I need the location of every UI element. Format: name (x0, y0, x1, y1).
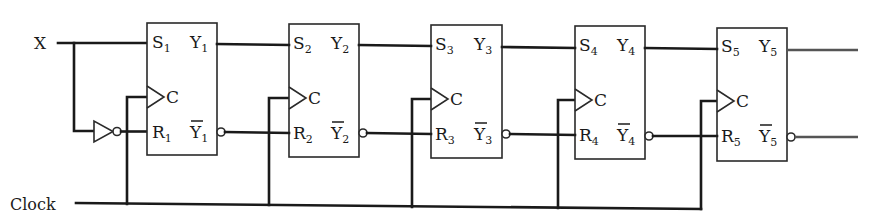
input-x-wire (58, 43, 147, 131)
clock-label: Clock (10, 195, 56, 214)
svg-text:C: C (166, 87, 179, 107)
svg-text:C: C (308, 88, 321, 108)
flipflop-4: S4 Y4 C R4 Y4 (575, 26, 653, 159)
flipflop-1: S1 Y1 C R1 Y1 (147, 23, 225, 155)
flipflop-2: S2 Y2 C R2 Y2 (289, 24, 367, 157)
svg-text:C: C (594, 90, 607, 110)
flipflop-5: S5 Y5 C R5 Y5 (717, 28, 795, 161)
flipflop-3: S3 Y3 C R3 Y3 (431, 25, 510, 158)
svg-text:C: C (450, 89, 463, 109)
input-x-label: X (34, 33, 47, 53)
shift-register-diagram: X Clock S1 Y1 C R1 Y1 S2 Y2 C (0, 0, 878, 222)
not-gate-icon (94, 121, 147, 142)
final-outputs (787, 50, 858, 137)
svg-text:C: C (736, 91, 749, 111)
